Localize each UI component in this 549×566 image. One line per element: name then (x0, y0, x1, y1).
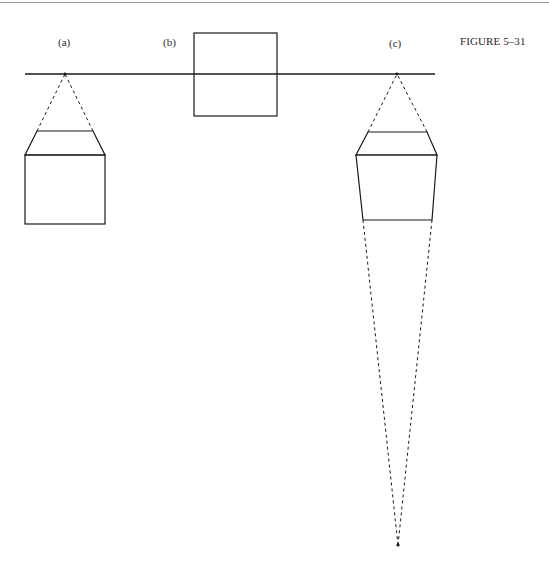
panel-c-drawing (356, 73, 437, 547)
convergence-line-a-right (65, 74, 93, 131)
box-a-top-face (25, 131, 105, 155)
convergence-line-c-top-right (397, 74, 427, 132)
vanishing-point-c-bottom (396, 543, 399, 546)
convergence-line-c-bottom-right (398, 220, 432, 545)
convergence-line-a-left (37, 74, 65, 131)
box-c-front-face (356, 155, 437, 220)
perspective-diagram (0, 0, 549, 566)
convergence-line-c-top-left (368, 74, 397, 132)
box-a-front-face (25, 155, 105, 224)
convergence-line-c-bottom-left (363, 220, 398, 545)
box-c-top-face (356, 132, 437, 155)
panel-a-drawing (25, 73, 105, 224)
